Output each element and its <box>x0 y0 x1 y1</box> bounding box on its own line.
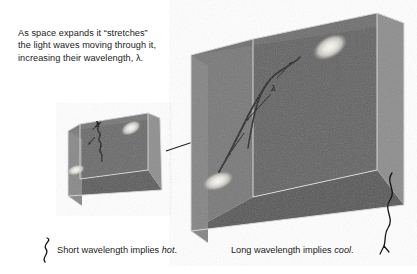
caption-short-emphasis: hot <box>162 245 175 255</box>
caption-long-trail: . <box>351 245 354 255</box>
caption-short-lead: Short wavelength implies <box>57 245 162 255</box>
large-space-cube <box>191 13 404 243</box>
caption-long-emphasis: cool <box>334 245 351 255</box>
lambda-label-small-cube: λ <box>95 120 100 129</box>
large-cube-front-left-face <box>191 55 208 243</box>
caption-long-lead: Long wavelength implies <box>231 245 334 255</box>
caption-long-wavelength: Long wavelength implies cool. <box>231 245 354 255</box>
annotation-text: As space expands it “stretches” the ligh… <box>18 27 208 64</box>
caption-short-trail: . <box>174 245 177 255</box>
caption-short-wavelength: Short wavelength implies hot. <box>57 245 177 255</box>
lambda-label-large-cube: λ <box>271 84 276 93</box>
